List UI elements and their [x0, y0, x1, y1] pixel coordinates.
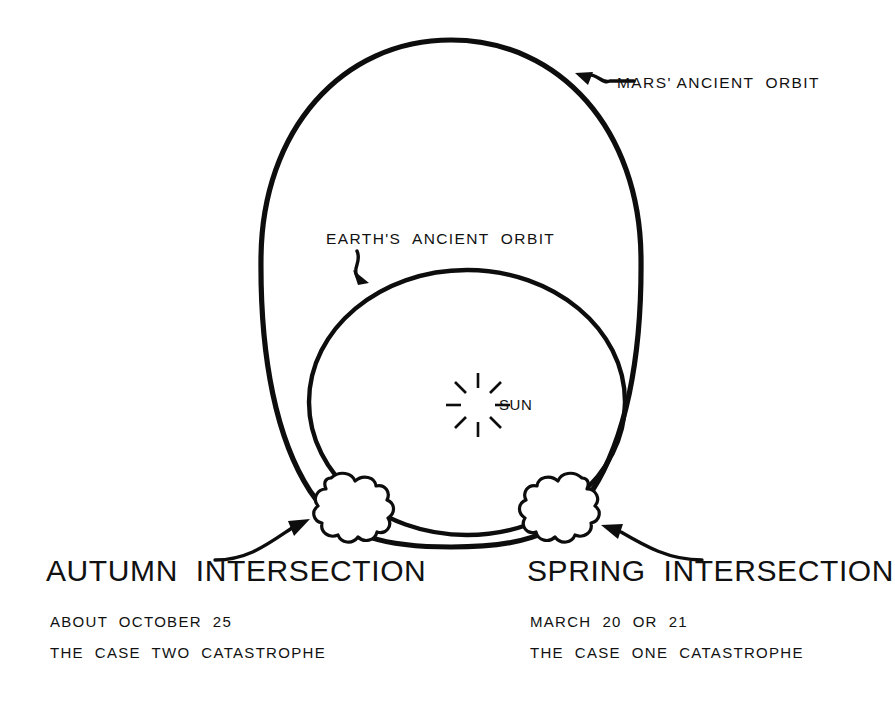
earth-orbit-label: EARTH'S ANCIENT ORBIT: [326, 231, 555, 247]
mars-orbit-path: [261, 40, 641, 547]
autumn-intersection-case: THE CASE TWO CATASTROPHE: [50, 645, 326, 660]
collision-puff-icon-autumn: [314, 473, 394, 542]
spring-intersection-date: MARCH 20 OR 21: [530, 614, 688, 629]
earth-leader-line: [353, 251, 369, 285]
mars-orbit-label: MARS' ANCIENT ORBIT: [617, 75, 820, 91]
sun-label: SUN: [499, 397, 532, 412]
spring-intersection-case: THE CASE ONE CATASTROPHE: [530, 645, 804, 660]
diagram-canvas: [0, 0, 895, 705]
collision-puff-icon-spring: [519, 473, 599, 542]
autumn-intersection-date: ABOUT OCTOBER 25: [50, 614, 232, 629]
spring-intersection-heading: SPRING INTERSECTION: [527, 556, 894, 586]
orbit-diagram: MARS' ANCIENT ORBIT EARTH'S ANCIENT ORBI…: [0, 0, 895, 705]
autumn-intersection-heading: AUTUMN INTERSECTION: [46, 556, 426, 586]
